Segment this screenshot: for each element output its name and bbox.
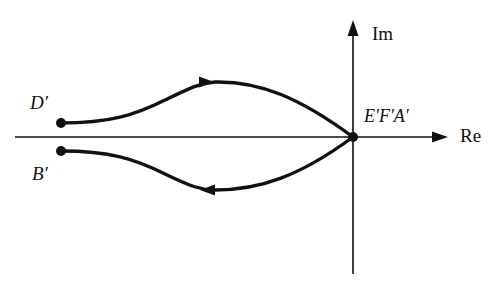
point-origin xyxy=(348,132,358,142)
lower-branch-arrow-icon xyxy=(200,185,215,196)
label-imag-axis: Im xyxy=(372,24,393,43)
label-real-axis: Re xyxy=(460,126,481,145)
real-axis-arrow-icon xyxy=(432,132,448,143)
upper-branch-arrow-icon xyxy=(199,77,214,88)
label-b: B′ xyxy=(32,164,48,183)
label-origin: E′F′A′ xyxy=(364,107,409,125)
upper-branch-curve xyxy=(61,82,353,137)
point-b xyxy=(56,146,66,156)
nyquist-diagram xyxy=(0,0,501,286)
lower-branch-curve xyxy=(61,137,353,190)
imag-axis-arrow-icon xyxy=(348,20,359,36)
point-d xyxy=(56,118,66,128)
label-d: D′ xyxy=(30,93,48,112)
